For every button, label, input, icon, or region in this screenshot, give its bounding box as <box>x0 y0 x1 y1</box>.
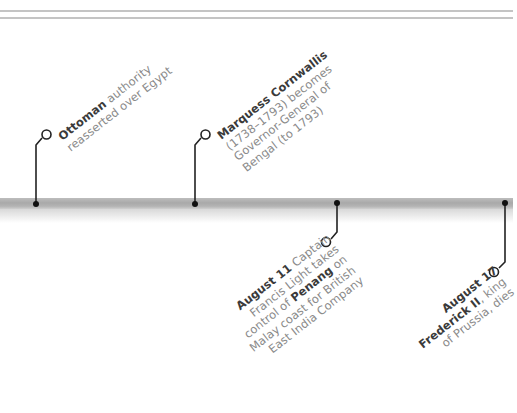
timeline-dot-icon <box>502 200 508 206</box>
timeline-dot-icon <box>192 201 198 207</box>
timeline-dot-icon <box>33 201 39 207</box>
event-marker-ring-icon <box>42 130 51 139</box>
event-marker-ring-icon <box>201 130 210 139</box>
connector-cornwallis <box>192 130 210 207</box>
connector-ottoman <box>33 130 51 207</box>
timeline-dot-icon <box>334 200 340 206</box>
